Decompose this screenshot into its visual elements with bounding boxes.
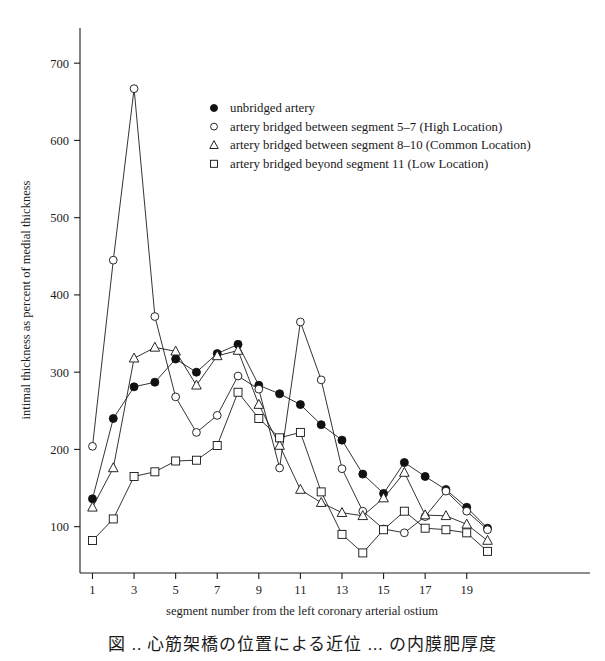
marker-filled-circle [130, 383, 138, 391]
y-tick-label: 600 [50, 134, 69, 148]
series-3 [88, 342, 493, 544]
series-polyline [93, 344, 488, 528]
y-tick-label: 700 [50, 57, 69, 71]
marker-open-circle [213, 412, 221, 420]
marker-open-circle [89, 442, 97, 450]
y-tick-label: 500 [50, 211, 69, 225]
x-tick-label: 19 [460, 583, 473, 597]
legend-label: artery bridged beyond segment 11 (Low Lo… [230, 157, 488, 171]
x-tick-label: 11 [294, 583, 306, 597]
x-tick-label: 13 [336, 583, 349, 597]
marker-open-circle [255, 385, 263, 393]
series-2 [89, 85, 492, 537]
marker-open-square [421, 524, 429, 532]
series-polyline [93, 347, 488, 540]
marker-open-circle [193, 429, 201, 437]
marker-open-circle [276, 464, 284, 472]
marker-open-circle [234, 372, 242, 380]
marker-filled-circle [400, 459, 408, 467]
marker-open-triangle [129, 353, 139, 362]
marker-open-triangle [88, 502, 98, 511]
marker-filled-circle [317, 421, 325, 429]
marker-open-square [210, 160, 217, 167]
marker-open-triangle [400, 467, 410, 476]
series-4 [88, 388, 491, 557]
marker-open-square [359, 549, 367, 557]
marker-open-square [213, 442, 221, 450]
line-chart: 100200300400500600700 135791113151719 un… [0, 0, 605, 630]
marker-open-triangle [192, 380, 202, 389]
marker-open-circle [172, 393, 180, 401]
x-tick-label: 9 [256, 583, 262, 597]
y-axis-title: intimal thickness as percent of medial t… [19, 180, 33, 419]
x-axis-title: segment number from the left coronary ar… [166, 604, 438, 618]
marker-open-triangle [150, 342, 160, 351]
figure-caption: 図 .. 心筋架橋の位置による近位 ... の内膜肥厚度 [0, 630, 605, 661]
marker-open-square [130, 472, 138, 480]
x-tick-label: 15 [377, 583, 390, 597]
legend-label: artery bridged between segment 5–7 (High… [230, 120, 502, 134]
x-tick-label: 1 [89, 583, 95, 597]
x-tick-label: 3 [131, 583, 137, 597]
x-tick-label: 5 [173, 583, 179, 597]
marker-open-circle [151, 313, 159, 321]
marker-open-square [380, 526, 388, 534]
series-polyline [93, 89, 488, 533]
marker-open-square [484, 547, 492, 555]
marker-open-circle [463, 507, 471, 515]
figure-container: 100200300400500600700 135791113151719 un… [0, 0, 605, 661]
marker-open-square [463, 529, 471, 537]
marker-filled-circle [276, 390, 284, 398]
y-tick-label: 200 [50, 443, 69, 457]
marker-open-square [338, 530, 346, 538]
marker-open-circle [109, 256, 117, 264]
chart-axes [74, 28, 590, 579]
marker-filled-circle [109, 415, 117, 423]
marker-filled-circle [338, 436, 346, 444]
marker-open-square [317, 488, 325, 496]
marker-open-triangle [210, 141, 218, 149]
marker-open-square [192, 456, 200, 464]
marker-open-square [442, 526, 450, 534]
marker-open-square [255, 415, 263, 423]
x-tick-labels: 135791113151719 [89, 583, 473, 597]
marker-open-square [151, 468, 159, 476]
marker-open-circle [400, 529, 408, 537]
legend-item-1: unbridged artery [210, 101, 315, 115]
legend-item-3: artery bridged between segment 8–10 (Com… [210, 138, 531, 152]
legend-item-4: artery bridged beyond segment 11 (Low Lo… [210, 157, 488, 171]
marker-open-triangle [337, 508, 347, 517]
marker-open-square [296, 428, 304, 436]
y-tick-label: 300 [50, 366, 69, 380]
y-tick-labels: 100200300400500600700 [50, 57, 69, 534]
marker-filled-circle [359, 470, 367, 478]
marker-open-triangle [296, 484, 306, 493]
marker-open-square [88, 537, 96, 545]
series-1 [88, 340, 491, 532]
marker-open-circle [442, 487, 450, 495]
legend-item-2: artery bridged between segment 5–7 (High… [211, 120, 503, 134]
marker-open-square [400, 507, 408, 515]
y-tick-label: 400 [50, 288, 69, 302]
marker-open-triangle [462, 519, 472, 528]
marker-filled-circle [421, 472, 429, 480]
marker-open-triangle [441, 511, 451, 520]
marker-open-square [276, 434, 284, 442]
marker-open-circle [296, 318, 304, 326]
legend-label: unbridged artery [230, 101, 316, 115]
marker-open-circle [338, 465, 346, 473]
legend-label: artery bridged between segment 8–10 (Com… [230, 138, 531, 152]
marker-open-circle [211, 123, 218, 130]
marker-open-triangle [108, 463, 118, 472]
y-tick-label: 100 [50, 520, 69, 534]
x-tick-label: 17 [419, 583, 432, 597]
x-tick-label: 7 [214, 583, 220, 597]
plot-series [88, 85, 493, 557]
chart-legend: unbridged arteryartery bridged between s… [210, 101, 531, 171]
marker-open-triangle [483, 535, 493, 544]
marker-open-square [234, 388, 242, 396]
marker-filled-circle [151, 378, 159, 386]
marker-open-square [109, 515, 117, 523]
marker-open-circle [317, 376, 325, 384]
marker-filled-circle [192, 368, 200, 376]
